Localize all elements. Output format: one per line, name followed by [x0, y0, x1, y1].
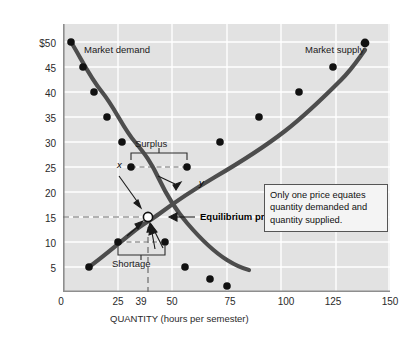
gridlines-vertical: [118, 24, 389, 292]
shortage-label: Shortage: [112, 258, 151, 269]
y-tick-35: 35: [22, 113, 56, 124]
x-tick-100: 100: [271, 296, 301, 307]
y-tick-45: 45: [22, 63, 56, 74]
point-x-label: x: [117, 159, 122, 170]
callout-text: Only one price equates quantity demanded…: [270, 190, 367, 225]
point-y-label: y: [199, 177, 204, 188]
y-tick-15: 15: [22, 213, 56, 224]
y-tick-30: 30: [22, 138, 56, 149]
y-tick-20: 20: [22, 188, 56, 199]
x-tick-39: 39: [126, 296, 156, 307]
annotation-arrows: [119, 176, 195, 249]
chart-figure: PRICE OF TUTORING (per hour) QUANTITY (h…: [0, 0, 417, 342]
y-tick-10: 10: [22, 238, 56, 249]
x-tick-0: 0: [46, 296, 76, 307]
y-tick-40: 40: [22, 88, 56, 99]
callout-box: Only one price equates quantity demanded…: [264, 184, 388, 232]
market-demand-curve: [71, 42, 249, 270]
y-tick-50: $50: [22, 38, 56, 49]
equilibrium-point-marker: [143, 212, 152, 221]
y-tick-25: 25: [22, 163, 56, 174]
plot-area: [63, 24, 390, 292]
x-tick-125: 125: [318, 296, 348, 307]
market-supply-label: Market supply: [305, 44, 364, 55]
y-tick-5: 5: [22, 263, 56, 274]
x-tick-150: 150: [375, 296, 405, 307]
x-tick-50: 50: [157, 296, 187, 307]
x-axis-title: QUANTITY (hours per semester): [110, 313, 249, 324]
market-demand-label: Market demand: [84, 44, 150, 55]
surplus-label: Surplus: [135, 138, 167, 149]
x-tick-75: 75: [215, 296, 245, 307]
